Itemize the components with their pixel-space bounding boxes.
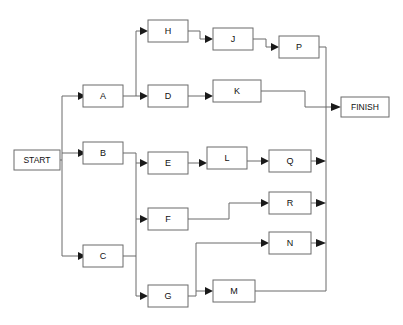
arrow-b-g [140, 292, 148, 300]
node-label-N: N [287, 238, 294, 248]
node-label-J: J [231, 34, 236, 44]
node-N[interactable]: N [269, 232, 311, 254]
finish-label: FINISH [351, 102, 379, 112]
node-L[interactable]: L [207, 147, 247, 169]
node-R[interactable]: R [269, 192, 311, 214]
node-label-Q: Q [286, 156, 293, 166]
node-label-F: F [165, 214, 171, 224]
node-F[interactable]: F [148, 208, 188, 230]
node-M[interactable]: M [213, 280, 255, 302]
arrow-n-trunk [316, 239, 326, 247]
node-label-A: A [100, 91, 106, 101]
arrow-a-d [140, 92, 148, 100]
node-E[interactable]: E [148, 152, 188, 174]
terminal-finish[interactable]: FINISH [341, 97, 389, 117]
arrow-b-f [140, 215, 148, 223]
node-label-K: K [234, 86, 240, 96]
arrow-l-q [261, 157, 269, 165]
arrow-r-trunk [316, 199, 326, 207]
node-K[interactable]: K [213, 80, 261, 102]
node-Q[interactable]: Q [269, 150, 311, 172]
arrow-f-r [261, 199, 269, 207]
arrow-e-l [199, 159, 207, 167]
node-label-P: P [296, 42, 302, 52]
node-label-G: G [164, 291, 171, 301]
arrow-j-p [271, 43, 279, 51]
arrow-trunk-finish [331, 103, 341, 111]
node-A[interactable]: A [83, 85, 123, 107]
flowchart-canvas: START FINISH A B C D E F [0, 0, 403, 325]
arrow-h-j [205, 35, 213, 43]
node-label-M: M [230, 286, 238, 296]
node-label-C: C [100, 251, 107, 261]
arrow-g-n [261, 239, 269, 247]
arrow-a-h [140, 27, 148, 35]
node-C[interactable]: C [83, 245, 123, 267]
node-label-H: H [165, 26, 172, 36]
node-label-E: E [165, 158, 171, 168]
node-label-R: R [287, 198, 294, 208]
edge-k-finish [261, 91, 326, 107]
node-B[interactable]: B [83, 142, 123, 164]
arrow-g-m [205, 287, 213, 295]
start-label: START [23, 155, 50, 165]
node-H[interactable]: H [148, 20, 188, 42]
terminal-start[interactable]: START [14, 150, 60, 170]
node-label-D: D [165, 91, 172, 101]
arrow-q-trunk [316, 157, 326, 165]
node-G[interactable]: G [148, 285, 188, 307]
edge-f-r [188, 203, 264, 219]
node-label-L: L [224, 153, 229, 163]
arrow-b-e [140, 159, 148, 167]
node-P[interactable]: P [279, 36, 319, 58]
arrow-d-k [205, 92, 213, 100]
node-J[interactable]: J [213, 28, 253, 50]
edge-j-p [253, 39, 274, 47]
node-label-B: B [100, 148, 106, 158]
node-D[interactable]: D [148, 85, 188, 107]
flowchart-svg: START FINISH A B C D E F [0, 0, 403, 325]
